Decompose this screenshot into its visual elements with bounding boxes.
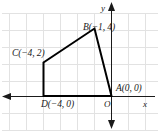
point-label-b: B(−1, 4) bbox=[83, 23, 115, 33]
y-axis-arrow-down bbox=[108, 120, 115, 129]
origin-label: O bbox=[104, 100, 110, 109]
plot-svg bbox=[0, 0, 159, 132]
point-label-c: C(−4, 2) bbox=[12, 49, 45, 59]
grid-lines bbox=[2, 13, 158, 131]
coordinate-plane-figure: B(−1, 4) C(−4, 2) A(0, 0) D(−4, 0) O y x bbox=[0, 0, 159, 132]
y-axis-label: y bbox=[101, 4, 105, 13]
x-axis-label: x bbox=[143, 100, 147, 109]
x-axis-arrow-left bbox=[2, 93, 11, 100]
point-label-a: A(0, 0) bbox=[116, 84, 142, 94]
point-label-d: D(−4, 0) bbox=[41, 100, 74, 110]
y-axis-arrow-up bbox=[108, 2, 115, 11]
